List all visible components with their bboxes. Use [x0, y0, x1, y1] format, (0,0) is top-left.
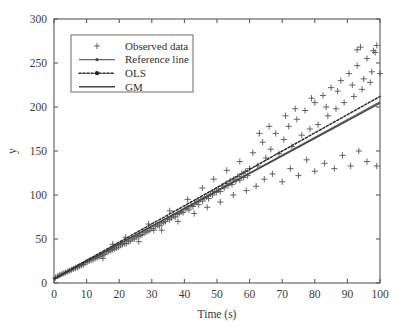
data-point [335, 88, 341, 94]
data-point [308, 95, 314, 101]
data-point [299, 132, 305, 138]
data-point [287, 166, 293, 172]
legend-label: Observed data [125, 40, 188, 52]
y-tick-label: 200 [30, 101, 48, 113]
data-point [307, 126, 313, 132]
data-point [204, 204, 210, 210]
data-point [377, 70, 383, 76]
data-point [356, 148, 362, 154]
data-point [260, 139, 266, 145]
x-tick-label: 30 [146, 288, 158, 300]
fit-line-gm [54, 103, 380, 279]
chart-legend: Observed dataReference lineOLSGM [71, 35, 193, 93]
data-point [354, 63, 360, 69]
data-point [292, 106, 298, 112]
data-point [354, 47, 360, 53]
data-point [217, 199, 223, 205]
data-point [211, 176, 217, 182]
data-point [364, 56, 370, 62]
data-point [359, 86, 365, 92]
data-point [268, 146, 274, 152]
x-tick-label: 100 [371, 288, 389, 300]
data-point [323, 104, 329, 110]
data-point [364, 158, 370, 164]
data-point [185, 196, 191, 202]
data-point [230, 192, 236, 198]
x-tick-label: 20 [113, 288, 125, 300]
data-point [269, 171, 275, 177]
data-point [279, 179, 285, 185]
y-tick-label: 300 [30, 13, 48, 25]
data-point [374, 163, 380, 169]
data-point [266, 123, 272, 129]
legend-label: Reference line [125, 53, 189, 65]
x-tick-label: 0 [51, 288, 57, 300]
data-point [243, 188, 249, 194]
data-point [367, 79, 373, 85]
data-point [341, 100, 347, 106]
data-point [325, 113, 331, 119]
data-point [286, 123, 292, 129]
data-point [328, 85, 334, 91]
y-tick-label: 150 [30, 145, 48, 157]
data-point [295, 173, 301, 179]
legend-label: GM [125, 81, 143, 93]
data-point [304, 157, 310, 163]
x-tick-label: 90 [342, 288, 354, 300]
data-point [253, 183, 259, 189]
data-point [338, 78, 344, 84]
data-point [357, 44, 363, 50]
data-point [237, 158, 243, 164]
data-point [333, 106, 339, 112]
data-point [339, 152, 345, 158]
data-point [250, 150, 256, 156]
data-point [348, 163, 354, 169]
data-point [261, 176, 267, 182]
data-point [256, 130, 262, 136]
chart-svg: 0102030405060708090100050100150200250300… [0, 0, 406, 328]
data-point [349, 82, 355, 88]
data-point [199, 185, 205, 191]
fit-line-ols [54, 96, 380, 278]
data-point [331, 166, 337, 172]
data-point [273, 130, 279, 136]
data-point [167, 208, 173, 214]
data-point [191, 210, 197, 216]
x-tick-label: 60 [244, 288, 256, 300]
y-tick-label: 100 [30, 189, 48, 201]
data-point [312, 168, 318, 174]
x-tick-label: 80 [309, 288, 321, 300]
data-point [315, 122, 321, 128]
data-point [374, 42, 380, 48]
x-tick-label: 10 [81, 288, 93, 300]
data-point [302, 107, 308, 113]
data-point [361, 76, 367, 82]
data-point [294, 116, 300, 122]
x-tick-label: 40 [179, 288, 191, 300]
data-point [346, 70, 352, 76]
y-tick-label: 250 [30, 57, 48, 69]
data-point [321, 160, 327, 166]
x-tick-label: 50 [211, 288, 223, 300]
fit-lines [54, 96, 380, 279]
y-tick-label: 0 [41, 277, 47, 289]
x-axis-label: Time (s) [198, 308, 237, 321]
chart-figure: 0102030405060708090100050100150200250300… [0, 0, 406, 328]
data-point [224, 167, 230, 173]
y-tick-label: 50 [36, 233, 48, 245]
data-point [281, 136, 287, 142]
data-point [320, 92, 326, 98]
data-point [312, 100, 318, 106]
data-point [369, 69, 375, 75]
legend-label: OLS [125, 67, 146, 79]
x-tick-label: 70 [276, 288, 288, 300]
y-axis-label: y [6, 148, 19, 154]
data-point [282, 113, 288, 119]
data-point [351, 93, 357, 99]
